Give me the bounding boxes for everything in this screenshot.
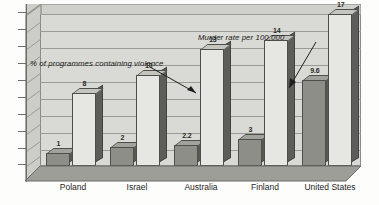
bar-value-label: 3 [249,126,253,133]
bar-value-label: 17 [337,1,344,8]
bar-front-face [328,14,352,166]
x-axis-label-united-states: United States [295,182,365,192]
bar-value-label: 2.2 [182,132,191,139]
annotation-murder-rate-arrow [278,40,328,95]
bar-side-face [352,6,359,162]
x-axis-label-finland: Finland [233,182,297,192]
annotation-violence-pct-arrow [148,65,208,101]
bar-front-face [72,93,96,166]
bar-israel-murder-rate[interactable]: 2 [110,147,134,166]
bar-value-label: 8 [83,80,87,87]
bar-front-face [110,147,134,166]
y-axis-ticks [18,4,28,182]
bar-value-label: 1 [57,140,61,147]
bar-chart: 1 8 2 10 [0,0,379,205]
bar-value-label: 2 [121,134,125,141]
annotation-violence-pct: % of programmes containing violence [30,59,164,68]
bar-front-face [238,139,262,166]
bar-finland-murder-rate[interactable]: 3 [238,139,262,166]
x-axis-label-australia: Australia [169,182,233,192]
bar-united-states-violence-pct[interactable]: 17 [328,14,352,166]
x-axis-labels: Poland Israel Australia Finland United S… [25,182,365,200]
bar-australia-murder-rate[interactable]: 2.2 [174,145,198,166]
annotation-murder-rate: Murder rate per 100,000 [198,33,284,42]
chart-floor [25,165,362,182]
bar-group-poland: 1 8 [46,14,104,166]
bar-side-face [224,41,231,162]
x-axis-label-poland: Poland [41,182,105,192]
bar-poland-violence-pct[interactable]: 8 [72,93,96,166]
x-axis-label-israel: Israel [105,182,169,192]
bar-side-face [96,85,103,162]
bar-front-face [174,145,198,166]
